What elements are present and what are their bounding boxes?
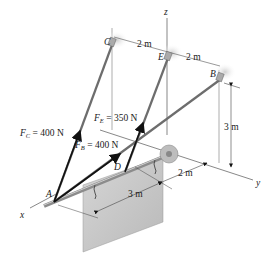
point-label-a: A	[45, 189, 52, 199]
point-label-e: E	[157, 52, 164, 62]
point-label-c: C	[104, 37, 111, 47]
force-label-fe: FE = 350 N	[93, 113, 138, 124]
statics-diagram: z y x C E B A D 2 m 2 m 3 m 2 m 3 m FC =…	[0, 0, 277, 278]
force-label-fb: FB = 400 N	[74, 140, 119, 151]
force-label-fc: FC = 400 N	[19, 128, 64, 139]
dim-label-e-b: 2 m	[186, 52, 201, 62]
dim-label-c-e: 2 m	[137, 39, 152, 49]
axis-label-z: z	[163, 7, 168, 17]
axis-label-x: x	[19, 210, 25, 220]
wall-flange-inner	[166, 151, 172, 157]
dim-label-2m-y: 2 m	[178, 168, 193, 178]
dimension-3m-ext-top	[224, 83, 240, 88]
dim-label-3m-height: 3 m	[224, 122, 239, 132]
point-label-b: B	[210, 69, 216, 79]
axis-label-y: y	[255, 178, 261, 188]
dim-label-3m-sign: 3 m	[128, 189, 143, 199]
point-label-d: D	[113, 162, 121, 172]
